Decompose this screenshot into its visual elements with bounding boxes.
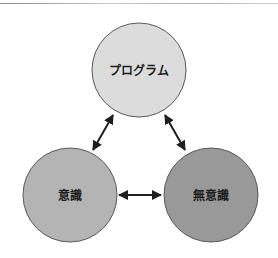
node-program: プログラム [92,23,186,117]
node-program-label: プログラム [109,63,169,78]
triad-diagram: プログラム 意識 無意識 [0,0,278,258]
arrow-program-unconscious [165,115,185,150]
node-conscious-label: 意識 [58,188,82,203]
node-unconscious-label: 無意識 [193,188,229,203]
node-unconscious: 無意識 [164,148,258,242]
node-conscious: 意識 [23,148,117,242]
arrow-program-conscious [93,115,113,150]
